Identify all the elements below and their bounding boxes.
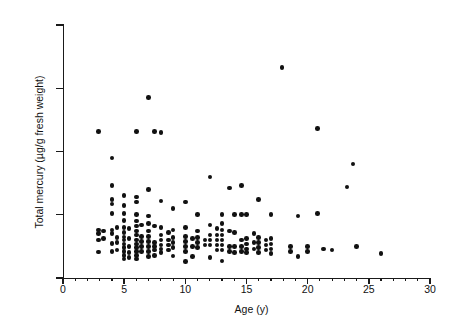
data-point	[127, 255, 132, 260]
data-point	[239, 238, 244, 243]
data-point	[232, 250, 237, 255]
data-point	[96, 250, 101, 255]
data-point	[110, 202, 115, 207]
data-point	[305, 244, 310, 249]
data-point	[115, 225, 120, 230]
data-point	[122, 203, 127, 208]
data-point	[134, 212, 139, 217]
data-point	[244, 212, 249, 217]
data-point	[127, 250, 132, 255]
data-point	[305, 249, 310, 254]
data-point	[244, 250, 249, 255]
data-point	[146, 95, 151, 100]
y-tick-mark	[56, 151, 63, 152]
data-point	[208, 175, 213, 180]
data-point	[139, 234, 144, 239]
x-tick-minor	[356, 278, 357, 281]
data-point	[152, 248, 157, 253]
data-point	[195, 229, 200, 234]
data-point	[134, 233, 139, 238]
x-tick-label: 5	[104, 284, 144, 295]
x-tick-minor	[75, 278, 76, 281]
x-tick-label: 20	[288, 284, 328, 295]
x-tick-minor	[99, 278, 100, 281]
data-point	[171, 245, 176, 250]
data-point	[288, 244, 293, 249]
x-axis-title-text: Age (y)	[185, 303, 269, 315]
data-point	[288, 249, 293, 254]
data-point	[354, 244, 359, 249]
data-point	[171, 235, 176, 240]
data-point	[252, 231, 257, 236]
data-point	[159, 225, 164, 230]
data-point	[122, 257, 127, 262]
data-point	[220, 233, 225, 238]
x-tick-minor	[344, 278, 345, 281]
data-point	[208, 238, 213, 243]
data-point	[110, 241, 115, 246]
data-point	[146, 234, 151, 239]
data-point	[115, 240, 120, 245]
data-point	[127, 244, 132, 249]
data-point	[110, 231, 115, 236]
data-point	[166, 238, 171, 243]
data-point	[208, 233, 213, 238]
data-point	[159, 130, 164, 135]
data-point	[122, 211, 127, 216]
data-point	[152, 129, 157, 134]
data-point	[183, 239, 188, 244]
data-point	[146, 244, 151, 249]
data-point	[220, 259, 225, 264]
data-point	[215, 238, 220, 243]
data-point	[139, 239, 144, 244]
data-point	[296, 214, 301, 219]
data-point	[227, 244, 232, 249]
x-axis-title: Age (y)	[0, 303, 453, 315]
data-point	[171, 240, 176, 245]
data-point	[110, 249, 115, 254]
data-point	[220, 228, 225, 233]
data-point	[232, 230, 237, 235]
y-tick-mark	[56, 88, 63, 89]
data-point	[256, 235, 261, 240]
data-point	[244, 242, 249, 247]
y-tick-mark	[56, 214, 63, 215]
data-point	[244, 236, 249, 241]
x-tick-minor	[283, 278, 284, 281]
data-point	[122, 225, 127, 230]
x-tick-minor	[209, 278, 210, 281]
x-tick-minor	[136, 278, 137, 281]
x-tick-minor	[87, 278, 88, 281]
data-point	[239, 212, 244, 217]
data-point	[330, 248, 335, 253]
data-point	[152, 253, 157, 258]
data-point	[195, 240, 200, 245]
data-point	[256, 197, 261, 202]
data-point	[215, 226, 220, 231]
data-point	[264, 243, 269, 248]
data-point	[146, 221, 151, 226]
data-point	[215, 248, 220, 253]
data-point	[122, 218, 127, 223]
data-point	[280, 65, 285, 70]
data-point	[146, 187, 151, 192]
data-point	[134, 257, 139, 262]
data-point	[379, 251, 384, 256]
x-tick-label: 30	[410, 284, 450, 295]
data-point	[183, 249, 188, 254]
x-tick-minor	[417, 278, 418, 281]
data-point	[139, 223, 144, 228]
data-point	[190, 254, 195, 259]
data-point	[215, 243, 220, 248]
data-point	[183, 200, 188, 205]
x-tick-minor	[319, 278, 320, 281]
data-point	[159, 250, 164, 255]
data-point	[269, 236, 274, 241]
data-point	[159, 233, 164, 238]
data-point	[110, 156, 115, 161]
data-point	[345, 185, 350, 190]
data-point	[220, 221, 225, 226]
data-point	[139, 249, 144, 254]
data-point	[203, 238, 208, 243]
data-point	[171, 206, 176, 211]
